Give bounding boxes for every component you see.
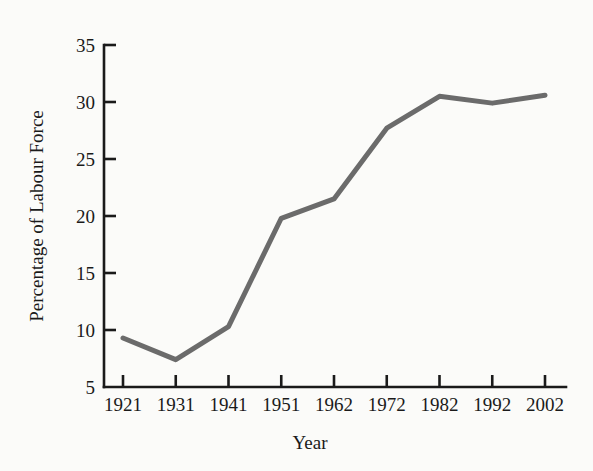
y-axis: 5101520253035 Percentage of Labour Force [26, 35, 116, 398]
x-tick-label: 2002 [526, 394, 564, 415]
line-chart-figure: 5101520253035 Percentage of Labour Force… [0, 0, 593, 471]
x-axis-ticks [123, 375, 545, 387]
y-tick-label: 5 [86, 377, 96, 398]
y-tick-label: 35 [76, 35, 95, 56]
chart-canvas: 5101520253035 Percentage of Labour Force… [0, 0, 593, 471]
y-axis-title: Percentage of Labour Force [26, 110, 47, 322]
x-tick-label: 1951 [262, 394, 300, 415]
x-tick-label: 1941 [210, 394, 248, 415]
y-axis-ticks [104, 45, 116, 330]
x-axis-title: Year [292, 432, 328, 453]
x-tick-label: 1982 [421, 394, 459, 415]
data-series-group [123, 95, 545, 359]
data-series-line [123, 95, 545, 359]
y-tick-label: 20 [76, 206, 95, 227]
x-axis-tick-labels: 192119311941195119621972198219922002 [104, 394, 564, 415]
y-axis-tick-labels: 5101520253035 [76, 35, 95, 398]
x-tick-label: 1931 [157, 394, 195, 415]
x-tick-label: 1962 [315, 394, 353, 415]
y-tick-label: 15 [76, 263, 95, 284]
x-tick-label: 1972 [368, 394, 406, 415]
y-tick-label: 30 [76, 92, 95, 113]
x-tick-label: 1992 [473, 394, 511, 415]
y-tick-label: 10 [76, 320, 95, 341]
x-axis: 192119311941195119621972198219922002 Yea… [104, 375, 566, 453]
y-tick-label: 25 [76, 149, 95, 170]
x-tick-label: 1921 [104, 394, 142, 415]
